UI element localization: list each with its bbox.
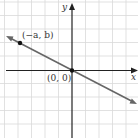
line-arrow-left-icon	[6, 36, 14, 42]
origin-label: (0, 0)	[47, 73, 71, 83]
y-axis-label: y	[61, 2, 68, 12]
point-a-label: (−a, b)	[22, 30, 53, 40]
graph-svg: y x (−a, b) (0, 0)	[0, 0, 138, 138]
x-axis-label: x	[131, 72, 136, 82]
line-arrow-right-icon	[130, 99, 138, 105]
point-neg-a-b	[18, 41, 22, 45]
coordinate-plane: y x (−a, b) (0, 0)	[0, 0, 138, 138]
y-axis-arrow-icon	[69, 3, 75, 10]
